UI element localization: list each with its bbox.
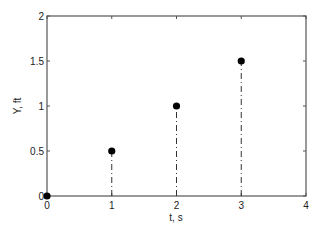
- x-tick-label: 2: [174, 200, 180, 211]
- y-tick-labels: 00.511.52: [30, 11, 44, 202]
- x-tick-label: 3: [238, 200, 244, 211]
- x-tick-label: 4: [303, 200, 309, 211]
- x-tick-label: 1: [109, 200, 115, 211]
- y-tick-label: 0: [38, 191, 44, 202]
- x-axis-label: t, s: [169, 212, 182, 223]
- data-point: [108, 147, 115, 154]
- x-tick-label: 0: [44, 200, 50, 211]
- data-point: [238, 57, 245, 64]
- y-tick-label: 0.5: [30, 146, 44, 157]
- x-tick-labels: 01234: [44, 200, 309, 211]
- y-tick-label: 1: [38, 101, 44, 112]
- y-tick-label: 2: [38, 11, 44, 22]
- data-markers: [43, 57, 244, 199]
- stem-plot: 01234 00.511.52 t, s Y, ft: [0, 0, 322, 231]
- data-point: [43, 192, 50, 199]
- y-axis-label: Y, ft: [12, 98, 23, 115]
- stems: [112, 61, 242, 196]
- y-tick-label: 1.5: [30, 56, 44, 67]
- data-point: [173, 102, 180, 109]
